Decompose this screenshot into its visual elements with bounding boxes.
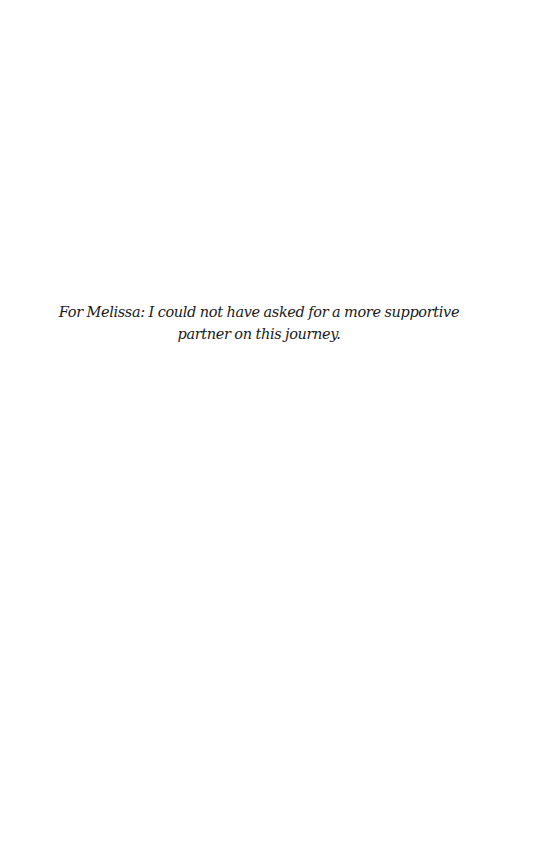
dedication-page: For Melissa: I could not have asked for … — [0, 0, 538, 865]
dedication-text: For Melissa: I could not have asked for … — [48, 301, 470, 345]
